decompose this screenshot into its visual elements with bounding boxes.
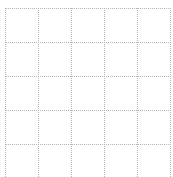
grid-cell-r3-c2[interactable]: [39, 77, 71, 110]
grid-horizontal-line: [5, 110, 171, 111]
grid-cell-r4-c1[interactable]: [6, 111, 38, 144]
grid-cell-r3-c1[interactable]: [6, 77, 38, 110]
grid-horizontal-line: [5, 8, 171, 9]
grid-cell-r5-c1[interactable]: [6, 145, 38, 177]
grid-cell-r3-c3[interactable]: [72, 77, 104, 110]
grid-cell-r1-c4[interactable]: [105, 9, 137, 42]
grid-cell-r4-c5[interactable]: [138, 111, 170, 144]
grid-cell-r1-c5[interactable]: [138, 9, 170, 42]
grid-vertical-line: [5, 8, 6, 177]
grid-vertical-line: [38, 8, 39, 177]
grid-cell-r1-c3[interactable]: [72, 9, 104, 42]
grid-cell-r5-c4[interactable]: [105, 145, 137, 177]
grid-cell-r4-c4[interactable]: [105, 111, 137, 144]
grid-cell-r1-c2[interactable]: [39, 9, 71, 42]
grid-cell-r3-c4[interactable]: [105, 77, 137, 110]
grid-cell-r2-c1[interactable]: [6, 43, 38, 76]
grid-cell-r4-c3[interactable]: [72, 111, 104, 144]
grid-vertical-line: [170, 8, 171, 177]
grid-horizontal-line: [5, 76, 171, 77]
grid-vertical-line: [71, 8, 72, 177]
grid-vertical-line: [104, 8, 105, 177]
dotted-grid: [0, 0, 173, 177]
grid-cell-r2-c3[interactable]: [72, 43, 104, 76]
grid-cell-r3-c5[interactable]: [138, 77, 170, 110]
grid-cell-r5-c2[interactable]: [39, 145, 71, 177]
grid-horizontal-line: [5, 144, 171, 145]
grid-cell-r5-c3[interactable]: [72, 145, 104, 177]
grid-cell-r2-c2[interactable]: [39, 43, 71, 76]
grid-cell-r1-c1[interactable]: [6, 9, 38, 42]
grid-cell-r2-c4[interactable]: [105, 43, 137, 76]
grid-vertical-line: [137, 8, 138, 177]
grid-cell-r5-c5[interactable]: [138, 145, 170, 177]
grid-cell-r2-c5[interactable]: [138, 43, 170, 76]
grid-horizontal-line: [5, 42, 171, 43]
grid-cell-r4-c2[interactable]: [39, 111, 71, 144]
